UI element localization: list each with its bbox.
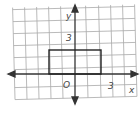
- x-axis-label: x: [128, 85, 135, 95]
- y-axis-label: y: [65, 11, 72, 21]
- coordinate-plane: y x O 3 3: [0, 0, 140, 120]
- origin-label: O: [63, 80, 70, 90]
- y-tick-3: 3: [66, 33, 72, 43]
- x-tick-3: 3: [108, 81, 114, 91]
